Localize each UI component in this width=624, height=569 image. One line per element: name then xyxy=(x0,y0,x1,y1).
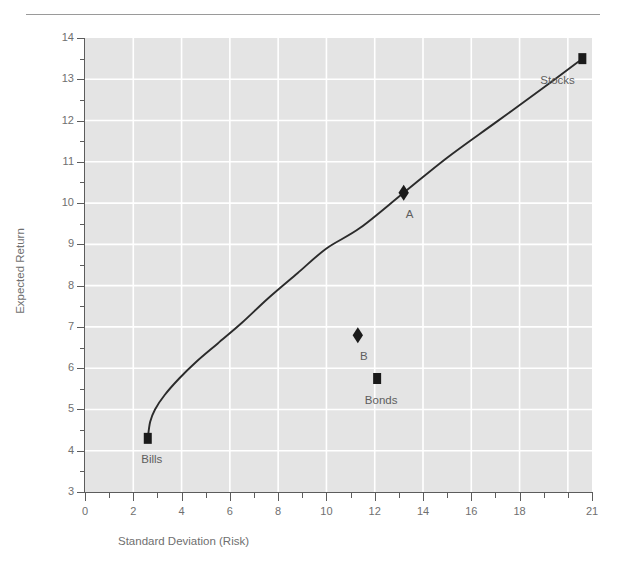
data-layer xyxy=(85,38,592,492)
efficient-frontier-curve xyxy=(148,59,583,439)
y-axis-tick-minor xyxy=(80,59,85,60)
y-axis-tick-label: 14 xyxy=(48,32,74,43)
x-axis-tick-major xyxy=(278,493,279,501)
x-axis-tick-label: 18 xyxy=(505,506,535,517)
data-point-marker-bills xyxy=(144,433,152,444)
x-axis-tick-major xyxy=(423,493,424,501)
x-axis-tick-minor xyxy=(351,493,352,498)
data-point-marker-a xyxy=(398,185,408,201)
data-point-marker-b xyxy=(353,327,363,343)
x-axis-tick-label: 2 xyxy=(118,506,148,517)
y-axis-tick-major xyxy=(77,162,85,163)
x-axis-tick-major xyxy=(375,493,376,501)
x-axis-tick-label: 8 xyxy=(263,506,293,517)
x-axis-tick-label: 12 xyxy=(360,506,390,517)
x-axis-tick-major xyxy=(182,493,183,501)
top-divider-rule xyxy=(26,14,600,15)
x-axis-tick-major xyxy=(133,493,134,501)
data-point-marker-stocks xyxy=(578,53,586,64)
y-axis-tick-label: 6 xyxy=(48,362,74,373)
chart-figure: 3456789101112131402468101214161821 Bills… xyxy=(0,0,624,569)
y-axis-tick-minor xyxy=(80,430,85,431)
y-axis-tick-major xyxy=(77,203,85,204)
y-axis-tick-major xyxy=(77,244,85,245)
plot-area xyxy=(85,38,592,492)
y-axis-tick-minor xyxy=(80,100,85,101)
y-axis-tick-label: 3 xyxy=(48,486,74,497)
data-point-label-bonds: Bonds xyxy=(361,395,401,407)
y-axis-tick-major xyxy=(77,409,85,410)
x-axis-tick-major xyxy=(85,493,86,501)
data-point-label-a: A xyxy=(390,209,430,221)
y-axis-tick-minor xyxy=(80,265,85,266)
y-axis-tick-label: 13 xyxy=(48,73,74,84)
y-axis-tick-major xyxy=(77,38,85,39)
x-axis-title: Standard Deviation (Risk) xyxy=(118,535,249,547)
data-point-label-stocks: Stocks xyxy=(540,75,580,87)
data-point-label-b: B xyxy=(344,351,384,363)
y-axis-tick-minor xyxy=(80,306,85,307)
y-axis-tick-major xyxy=(77,451,85,452)
y-axis-tick-minor xyxy=(80,141,85,142)
y-axis-tick-label: 5 xyxy=(48,403,74,414)
x-axis-tick-label: 16 xyxy=(456,506,486,517)
y-axis-tick-label: 11 xyxy=(48,156,74,167)
y-axis-tick-label: 10 xyxy=(48,197,74,208)
x-axis-tick-minor xyxy=(254,493,255,498)
x-axis-tick-label: 6 xyxy=(215,506,245,517)
y-axis-tick-label: 7 xyxy=(48,321,74,332)
data-point-marker-bonds xyxy=(373,373,381,384)
x-axis-line xyxy=(84,492,593,493)
x-axis-tick-label: 0 xyxy=(70,506,100,517)
y-axis-tick-minor xyxy=(80,348,85,349)
data-point-label-bills: Bills xyxy=(132,454,172,466)
y-axis-tick-label: 8 xyxy=(48,280,74,291)
x-axis-tick-label: 4 xyxy=(167,506,197,517)
y-axis-tick-major xyxy=(77,121,85,122)
y-axis-tick-major xyxy=(77,327,85,328)
y-axis-tick-minor xyxy=(80,471,85,472)
y-axis-tick-label: 12 xyxy=(48,115,74,126)
y-axis-tick-label: 4 xyxy=(48,445,74,456)
x-axis-tick-minor xyxy=(544,493,545,498)
x-axis-tick-major xyxy=(592,493,593,501)
y-axis-tick-major xyxy=(77,79,85,80)
y-axis-tick-major xyxy=(77,492,85,493)
x-axis-tick-minor xyxy=(399,493,400,498)
y-axis-tick-label: 9 xyxy=(48,238,74,249)
y-axis-tick-major xyxy=(77,286,85,287)
x-axis-tick-major xyxy=(471,493,472,501)
x-axis-tick-label: 21 xyxy=(577,506,607,517)
x-axis-tick-minor xyxy=(495,493,496,498)
x-axis-tick-major xyxy=(326,493,327,501)
x-axis-tick-minor xyxy=(157,493,158,498)
x-axis-tick-minor xyxy=(447,493,448,498)
y-axis-tick-minor xyxy=(80,224,85,225)
y-axis-title: Expected Return xyxy=(14,211,26,331)
y-axis-tick-major xyxy=(77,368,85,369)
x-axis-tick-label: 10 xyxy=(311,506,341,517)
x-axis-tick-minor xyxy=(109,493,110,498)
x-axis-tick-label: 14 xyxy=(408,506,438,517)
x-axis-tick-major xyxy=(520,493,521,501)
x-axis-tick-minor xyxy=(568,493,569,498)
y-axis-tick-minor xyxy=(80,389,85,390)
x-axis-tick-minor xyxy=(206,493,207,498)
x-axis-tick-minor xyxy=(302,493,303,498)
y-axis-tick-minor xyxy=(80,182,85,183)
x-axis-tick-major xyxy=(230,493,231,501)
